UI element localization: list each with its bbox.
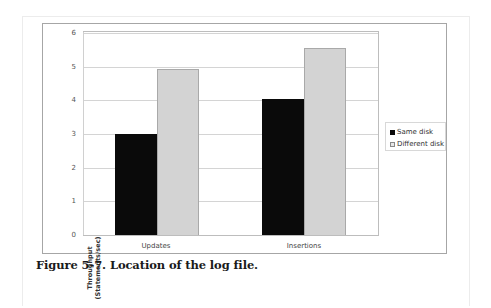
y-tick-label: 3: [62, 130, 76, 138]
bar-updates-same-disk: [115, 134, 157, 235]
legend: Same disk Different disk: [385, 122, 446, 151]
y-tick-label: 2: [62, 164, 76, 172]
y-tick-label: 5: [62, 63, 76, 71]
category-label-updates: Updates: [116, 242, 196, 250]
y-tick-label: 4: [62, 96, 76, 104]
legend-item-same-disk: Same disk: [390, 128, 433, 136]
y-tick-label: 1: [62, 197, 76, 205]
category-label-insertions: Insertions: [264, 242, 344, 250]
bar-updates-different-disk: [157, 69, 199, 235]
y-tick-label: 0: [62, 231, 76, 239]
legend-label: Same disk: [397, 128, 433, 136]
legend-swatch-different-disk: [390, 142, 395, 147]
bar-insertions-same-disk: [262, 99, 304, 235]
figure-caption: Figure 5-7. Location of the log file.: [36, 258, 258, 272]
legend-item-different-disk: Different disk: [390, 140, 444, 148]
legend-label: Different disk: [397, 140, 444, 148]
y-tick-label: 6: [62, 29, 76, 37]
bar-insertions-different-disk: [304, 48, 346, 235]
legend-swatch-same-disk: [390, 130, 395, 135]
